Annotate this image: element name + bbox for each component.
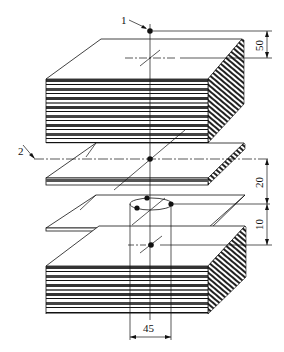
point-dot [134, 205, 139, 210]
reference-point-center [147, 156, 153, 162]
reference-point-bottom [148, 242, 154, 248]
dimension-20 [265, 159, 269, 204]
dimension-10-label: 10 [253, 219, 265, 231]
dimension-45 [130, 335, 171, 339]
point-dot [168, 201, 173, 206]
dimension-45-label: 45 [143, 322, 155, 334]
dimension-50-label: 50 [253, 40, 265, 52]
callout-2: 2 [18, 145, 35, 159]
callout-1: 1 [121, 14, 147, 29]
point-dot [144, 195, 149, 200]
dimension-20-label: 20 [253, 177, 265, 189]
top-sheet-stack [46, 39, 244, 143]
bottom-sheet-stack [46, 226, 246, 314]
single-plate-upper [46, 143, 245, 185]
reference-point-1 [147, 28, 153, 34]
callout-1-label: 1 [121, 14, 127, 26]
technical-diagram: 1 2 50 20 10 45 [0, 0, 284, 352]
callout-2-label: 2 [18, 145, 24, 157]
